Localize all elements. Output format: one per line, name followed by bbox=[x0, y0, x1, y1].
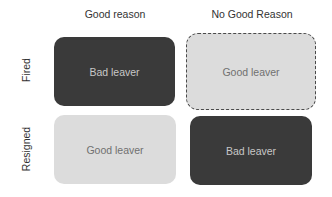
cell-label: Bad leaver bbox=[226, 145, 276, 157]
cell-resigned-good-reason: Good leaver bbox=[54, 115, 176, 184]
cell-label: Bad leaver bbox=[89, 66, 139, 78]
cell-fired-no-good-reason: Good leaver bbox=[186, 33, 316, 110]
column-header-good-reason: Good reason bbox=[54, 8, 176, 20]
cell-label: Good leaver bbox=[222, 66, 279, 78]
cell-resigned-no-good-reason: Bad leaver bbox=[190, 116, 312, 185]
column-header-no-good-reason: No Good Reason bbox=[188, 8, 316, 20]
cell-fired-good-reason: Bad leaver bbox=[54, 37, 175, 106]
cell-label: Good leaver bbox=[86, 144, 143, 156]
row-header-fired: Fired bbox=[20, 50, 32, 90]
row-header-resigned: Resigned bbox=[20, 123, 32, 175]
